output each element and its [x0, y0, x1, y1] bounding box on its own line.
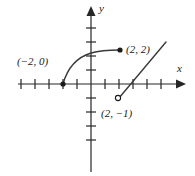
graph-canvas [0, 0, 195, 176]
piecewise-function-graph: (−2, 0) (2, 2) (2, −1) x y [0, 0, 195, 176]
filled-dot-neg2-0 [60, 81, 65, 86]
x-axis-group [18, 79, 186, 89]
point-label-neg2-0: (−2, 0) [17, 55, 48, 67]
y-axis-label: y [99, 2, 104, 14]
point-label-2-neg1: (2, −1) [101, 107, 132, 119]
point-label-2-2: (2, 2) [126, 43, 150, 55]
y-axis-group [86, 6, 96, 172]
open-circle-2-neg1 [115, 95, 120, 100]
y-axis-arrowhead [87, 6, 96, 16]
filled-dot-2-2 [117, 47, 122, 52]
x-axis-label: x [177, 62, 182, 74]
x-axis-arrowhead [176, 80, 186, 89]
